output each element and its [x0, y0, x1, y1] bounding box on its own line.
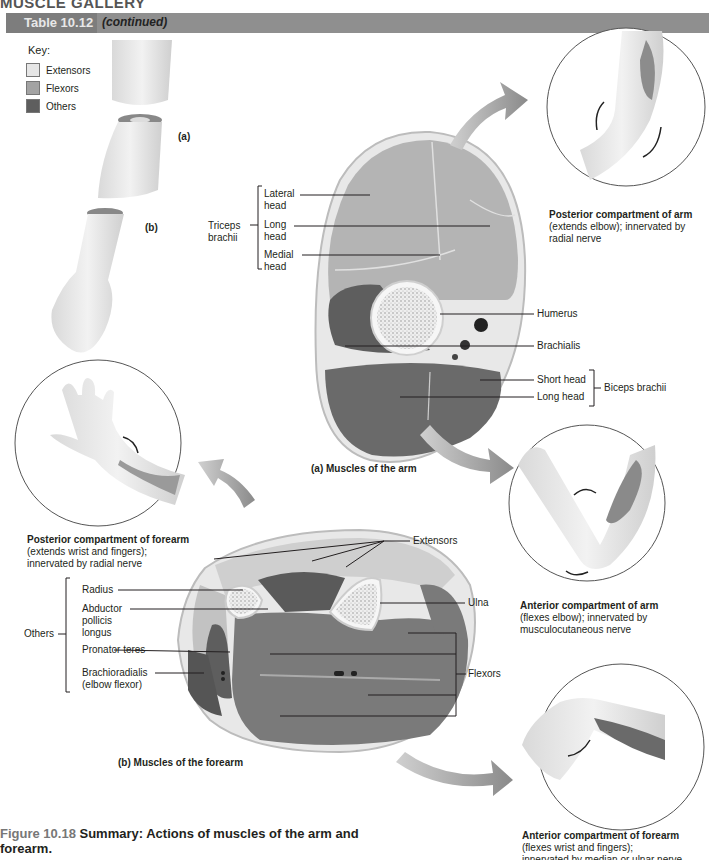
label-triceps-brachii: Triceps brachii: [208, 220, 240, 244]
figure-caption: Figure 10.18 Summary: Actions of muscles…: [0, 826, 460, 856]
figure-caption-line1: Summary: Actions of muscles of the arm a…: [80, 826, 359, 841]
posterior-arm-circle: [547, 28, 705, 186]
label-others: Others: [24, 628, 54, 640]
figure-number: Figure 10.18: [0, 826, 76, 841]
limb-label-b: (b): [145, 222, 158, 234]
medial-head-line-2: head: [264, 261, 293, 273]
label-lateral-head: Lateral head: [264, 188, 295, 212]
callout-anterior-arm-line2: musculocutaneous nerve: [520, 624, 658, 636]
upper-arm-segment-icon: [98, 40, 172, 198]
callout-anterior-forearm-title: Anterior compartment of forearm: [522, 830, 682, 842]
abductor-line-2: pollicis: [82, 615, 122, 627]
label-brachialis: Brachialis: [537, 340, 580, 352]
callout-posterior-arm-title: Posterior compartment of arm: [549, 209, 692, 221]
anterior-arm-circle: [509, 425, 665, 581]
label-long-head-triceps: Long head: [264, 219, 286, 243]
abductor-line-3: longus: [82, 627, 122, 639]
callout-posterior-forearm-title: Posterior compartment of forearm: [27, 534, 189, 546]
limb-label-a: (a): [178, 131, 190, 143]
label-pronator-teres: Pronator teres: [82, 644, 145, 656]
label-short-head: Short head: [537, 374, 586, 386]
triceps-line-2: brachii: [208, 232, 240, 244]
triceps-line-1: Triceps: [208, 220, 240, 232]
callout-posterior-forearm-line1: (extends wrist and fingers);: [27, 546, 189, 558]
callout-posterior-arm-line2: radial nerve: [549, 233, 692, 245]
anatomy-illustration: [0, 0, 709, 860]
label-brachioradialis: Brachioradialis (elbow flexor): [82, 667, 148, 691]
caption-muscles-of-arm: (a) Muscles of the arm: [311, 463, 417, 475]
callout-anterior-forearm-line2: innervated by median or ulnar nerve: [522, 854, 682, 860]
posterior-forearm-circle: [15, 360, 185, 526]
label-long-head-biceps: Long head: [537, 391, 584, 403]
forearm-cross-section: [178, 530, 475, 752]
arm-cross-section: [316, 132, 526, 462]
label-ulna: Ulna: [468, 597, 489, 609]
label-biceps-brachii: Biceps brachii: [604, 382, 666, 394]
label-humerus: Humerus: [537, 308, 578, 320]
callout-posterior-forearm: Posterior compartment of forearm (extend…: [27, 534, 189, 570]
figure-caption-line2: forearm.: [0, 841, 460, 856]
callout-anterior-forearm: Anterior compartment of forearm (flexes …: [522, 830, 682, 860]
anterior-forearm-circle: [522, 664, 704, 830]
callout-anterior-arm-line1: (flexes elbow); innervated by: [520, 612, 658, 624]
callout-anterior-arm-title: Anterior compartment of arm: [520, 600, 658, 612]
label-extensors: Extensors: [413, 535, 457, 547]
callout-anterior-arm: Anterior compartment of arm (flexes elbo…: [520, 600, 658, 636]
label-abductor-pollicis-longus: Abductor pollicis longus: [82, 603, 122, 639]
medial-head-line-1: Medial: [264, 249, 293, 261]
brachioradialis-line-2: (elbow flexor): [82, 679, 148, 691]
caption-muscles-of-forearm: (b) Muscles of the forearm: [118, 757, 243, 769]
callout-anterior-forearm-line1: (flexes wrist and fingers);: [522, 842, 682, 854]
long-head-line-1: Long: [264, 219, 286, 231]
label-medial-head: Medial head: [264, 249, 293, 273]
abductor-line-1: Abductor: [82, 603, 122, 615]
callout-posterior-arm: Posterior compartment of arm (extends el…: [549, 209, 692, 245]
label-flexors: Flexors: [468, 668, 501, 680]
callout-posterior-arm-line1: (extends elbow); innervated by: [549, 221, 692, 233]
lateral-head-line-1: Lateral: [264, 188, 295, 200]
callout-posterior-forearm-line2: innervated by radial nerve: [27, 558, 189, 570]
brachioradialis-line-1: Brachioradialis: [82, 667, 148, 679]
forearm-segment-icon: [51, 208, 124, 353]
lateral-head-line-2: head: [264, 200, 295, 212]
long-head-line-2: head: [264, 231, 286, 243]
label-radius: Radius: [82, 584, 113, 596]
